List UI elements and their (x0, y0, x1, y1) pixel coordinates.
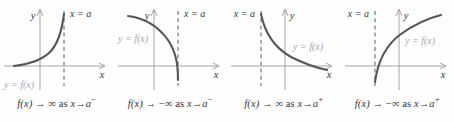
asymptote-label: x = a (69, 8, 91, 19)
vertical-asymptote-figure: y x x = a y = f(x) f(x) → ∞ as x→a− (0, 0, 454, 123)
panel-3: y x x = a y = f(x) f(x) → ∞ as x→a+ (227, 0, 341, 123)
caption-arrow2-icon: → (75, 98, 86, 109)
caption-limit-value: −∞ (386, 98, 400, 109)
caption-side-superscript: + (435, 94, 440, 104)
y-axis-label: y (143, 10, 149, 21)
panel-4-caption: f(x) → −∞ as x→a+ (341, 94, 454, 109)
caption-limit-value: −∞ (159, 98, 173, 109)
panel-3-caption: f(x) → ∞ as x→a+ (227, 94, 341, 109)
x-axis-label: x (326, 69, 332, 80)
panel-1-caption: f(x) → ∞ as x→a− (0, 94, 114, 109)
y-axis-label: y (30, 10, 36, 21)
y-axis-label: y (402, 10, 408, 21)
caption-arrow2-icon: → (419, 98, 430, 109)
caption-arrow2-icon: → (192, 98, 203, 109)
axes (118, 10, 218, 90)
caption-limit-value: ∞ (48, 98, 56, 109)
panel-2-caption: f(x) → −∞ as x→a− (114, 94, 228, 109)
caption-as-word: as (402, 98, 411, 109)
caption-side-superscript: + (318, 94, 323, 104)
caption-arrow-icon: → (373, 98, 384, 109)
function-label: y = f(x) (404, 35, 436, 47)
asymptote-label: x = a (346, 8, 368, 19)
y-axis-label: y (289, 10, 295, 21)
function-curve (128, 16, 178, 80)
axes (4, 10, 104, 90)
caption-function: f(x) (244, 98, 259, 109)
caption-arrow-icon: → (146, 98, 157, 109)
function-label: y = f(x) (292, 41, 324, 53)
panel-2-plot: y x x = a y = f(x) (114, 0, 228, 95)
panel-1: y x x = a y = f(x) f(x) → ∞ as x→a− (0, 0, 114, 123)
caption-function: f(x) (355, 98, 370, 109)
caption-arrow-icon: → (35, 98, 46, 109)
caption-function: f(x) (17, 98, 32, 109)
caption-function: f(x) (128, 98, 143, 109)
caption-as-word: as (286, 98, 295, 109)
axes (345, 10, 445, 90)
caption-limit-value: ∞ (275, 98, 283, 109)
function-curve (14, 14, 64, 66)
panel-1-plot: y x x = a y = f(x) (0, 0, 114, 95)
function-label: y = f(x) (3, 79, 35, 91)
panel-4-plot: y x x = a y = f(x) (341, 0, 454, 95)
panel-3-plot: y x x = a y = f(x) (227, 0, 341, 95)
caption-side-superscript: − (208, 94, 213, 104)
caption-as-word: as (175, 98, 184, 109)
caption-as-word: as (59, 98, 68, 109)
x-axis-label: x (212, 69, 218, 80)
x-axis-label: x (439, 69, 445, 80)
asymptote-label: x = a (183, 8, 205, 19)
panel-2: y x x = a y = f(x) f(x) → −∞ as x→a− (114, 0, 228, 123)
x-axis-label: x (99, 69, 105, 80)
caption-arrow2-icon: → (302, 98, 313, 109)
panel-4: y x x = a y = f(x) f(x) → −∞ as x→a+ (341, 0, 454, 123)
caption-arrow-icon: → (262, 98, 273, 109)
asymptote-label: x = a (233, 8, 255, 19)
function-label: y = f(x) (117, 33, 149, 45)
function-curve (375, 15, 441, 82)
caption-side-superscript: − (91, 94, 96, 104)
